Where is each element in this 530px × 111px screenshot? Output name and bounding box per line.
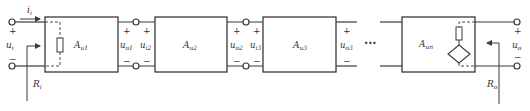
input-port: ii + ui − Ri xyxy=(6,5,45,101)
output-terminal-bottom xyxy=(514,63,520,69)
input-resistor-icon xyxy=(57,38,63,52)
plus-sign: + xyxy=(253,26,261,36)
input-resistance-arrow xyxy=(27,46,40,101)
output-minus-sign: − xyxy=(514,52,522,62)
input-resistance-label: Ri xyxy=(32,79,42,90)
node-top xyxy=(133,19,139,25)
interstage-1-2: + + − − uo1 ui2 xyxy=(118,19,155,69)
minus-sign: − xyxy=(343,56,351,66)
stage-3-output-label: uo3 xyxy=(340,40,353,51)
minus-sign: − xyxy=(143,56,151,66)
stage-3-input-label: ui3 xyxy=(250,40,261,51)
stage-2-output-label: uo2 xyxy=(230,40,243,51)
node-bottom xyxy=(133,63,139,69)
minus-sign: − xyxy=(123,56,131,66)
plus-sign: + xyxy=(143,26,151,36)
input-plus-sign: + xyxy=(9,26,17,36)
output-terminal-top xyxy=(514,19,520,25)
stage-1-block: Au1 xyxy=(45,17,118,72)
plus-sign: + xyxy=(233,26,241,36)
output-port: + uo − Ro xyxy=(475,19,522,104)
output-voltage-label: uo xyxy=(512,40,522,51)
interstage-2-3: + + − − uo2 ui3 xyxy=(227,19,263,69)
output-resistor-icon xyxy=(456,27,462,40)
amplifier-diagram: ii + ui − Ri Au1 + + − − uo1 ui2 Au2 + xyxy=(0,0,530,111)
minus-sign: − xyxy=(253,56,261,66)
stage-3-block: Au3 + − uo3 xyxy=(263,17,357,72)
node-bottom xyxy=(243,63,249,69)
minus-sign: − xyxy=(233,56,241,66)
ellipsis-more-stages: ··· xyxy=(364,36,377,50)
stage-2-input-label: ui2 xyxy=(140,40,151,51)
plus-sign: + xyxy=(123,26,131,36)
input-minus-sign: − xyxy=(9,54,17,64)
stage-1-output-label: uo1 xyxy=(120,40,133,51)
input-terminal-top xyxy=(9,19,15,25)
output-resistance-label: Ro xyxy=(486,79,498,90)
node-top xyxy=(243,19,249,25)
output-plus-sign: + xyxy=(514,26,522,36)
stage-n-block: Aun xyxy=(380,17,475,72)
input-current-label: ii xyxy=(27,5,32,16)
stage-2-block: Au2 xyxy=(155,17,227,72)
output-resistance-arrow xyxy=(487,43,499,104)
input-voltage-label: ui xyxy=(6,40,14,51)
plus-sign: + xyxy=(343,26,351,36)
